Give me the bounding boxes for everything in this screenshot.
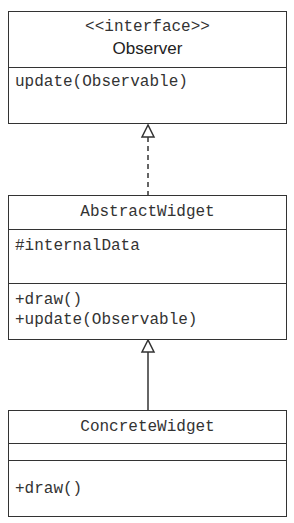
realization-arrow	[142, 125, 154, 195]
class-name: ConcreteWidget	[9, 417, 286, 437]
operations-section: +draw()	[9, 461, 286, 515]
operation: +draw()	[9, 290, 286, 310]
class-name: AbstractWidget	[9, 202, 286, 222]
hollow-triangle-icon	[142, 125, 154, 137]
class-header: <<interface>> Observer	[9, 12, 286, 68]
attributes-section: #internalData	[9, 230, 286, 284]
generalization-arrow	[142, 340, 154, 410]
attributes-section	[9, 444, 286, 461]
class-observer[interactable]: <<interface>> Observer update(Observable…	[8, 11, 287, 124]
stereotype-label: <<interface>>	[9, 16, 286, 38]
class-header: AbstractWidget	[9, 196, 286, 230]
hollow-triangle-icon	[142, 340, 154, 352]
operations-section: update(Observable)	[9, 68, 286, 123]
class-concrete-widget[interactable]: ConcreteWidget +draw()	[8, 410, 287, 517]
class-abstract-widget[interactable]: AbstractWidget #internalData +draw() +up…	[8, 195, 287, 340]
operation: +update(Observable)	[9, 310, 286, 330]
class-header: ConcreteWidget	[9, 411, 286, 444]
attribute: #internalData	[9, 236, 286, 256]
operation: +draw()	[9, 479, 286, 499]
class-name: Observer	[9, 38, 286, 60]
operations-section: +draw() +update(Observable)	[9, 284, 286, 338]
operation: update(Observable)	[9, 72, 286, 92]
